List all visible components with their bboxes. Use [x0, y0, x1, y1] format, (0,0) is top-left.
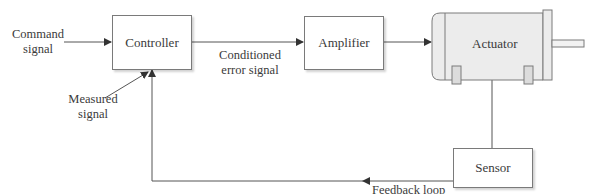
controller-label: Controller: [125, 35, 178, 51]
conditioned-error-signal-label: Conditioned error signal: [214, 48, 286, 78]
actuator-label: Actuator: [472, 36, 517, 52]
command-signal-label: Command signal: [10, 27, 66, 57]
feedback-loop-label: Feedback loop: [372, 183, 445, 194]
amplifier-label: Amplifier: [318, 35, 369, 51]
sensor-block: Sensor: [453, 148, 533, 188]
controller-block: Controller: [112, 15, 192, 70]
sensor-label: Sensor: [475, 160, 510, 176]
amplifier-block: Amplifier: [304, 16, 384, 70]
measured-signal-label: Measured signal: [58, 92, 128, 122]
